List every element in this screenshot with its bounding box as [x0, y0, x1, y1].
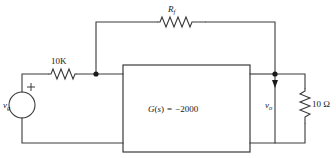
output-voltage-arrow-icon	[272, 80, 278, 88]
input-resistor-label: 10K	[51, 56, 67, 66]
voltage-source-symbol	[9, 92, 35, 118]
circuit-schematic-canvas: vg 10K Rf G(s)=−2000 vo 10 Ω	[0, 0, 336, 158]
wire-load-bottom-return	[250, 124, 305, 143]
wire-source-bottom-rail	[22, 118, 123, 143]
feedback-resistor-label: Rf	[167, 4, 177, 15]
load-resistor-symbol	[300, 88, 310, 124]
output-node-dot	[272, 71, 277, 76]
summing-node-dot	[93, 71, 98, 76]
circuit-diagram: vg 10K Rf G(s)=−2000 vo 10 Ω	[0, 0, 336, 158]
feedback-resistor-symbol	[157, 17, 206, 27]
output-voltage-label: vo	[265, 100, 273, 111]
wire-output-to-load-top	[275, 74, 305, 88]
wire-network	[22, 22, 305, 143]
transfer-function-label: G(s)=−2000	[148, 104, 199, 114]
wire-feedback-right-riser	[206, 22, 275, 74]
input-resistor-symbol	[48, 69, 77, 79]
source-plus-icon	[27, 83, 35, 91]
load-resistor-label: 10 Ω	[312, 99, 330, 109]
wire-source-to-input-resistor	[22, 74, 48, 92]
wire-feedback-left-riser	[96, 22, 157, 74]
